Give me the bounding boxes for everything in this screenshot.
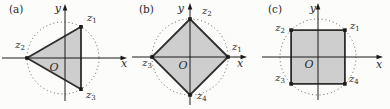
panel-tag: (a) [9,3,23,15]
panel-c: (c)yxOz1z2z3z4 [260,0,390,109]
origin-label: O [178,59,187,72]
vertex-marker-z1 [343,28,347,32]
panel-b-canvas: (b)yxOz1z2z3z4 [130,0,260,109]
vertex-label-z2: z2 [14,39,25,52]
vertex-label-z3: z3 [274,72,285,85]
vertex-marker-z2 [188,17,192,21]
vertex-marker-z3 [150,55,154,59]
panel-a-canvas: (a)yxOz1z2z3 [0,0,130,109]
vertex-marker-z2 [25,56,29,60]
x-axis-label: x [121,57,128,70]
y-axis-label: y [54,2,62,15]
vertex-label-z4: z4 [348,73,359,86]
vertex-label-z1: z1 [231,41,242,54]
vertex-marker-z2 [289,28,293,32]
panel-tag: (c) [268,3,282,15]
y-axis-arrowhead-icon [63,4,68,11]
vertex-label-z2: z2 [274,22,285,35]
vertex-label-z2: z2 [201,5,212,18]
vertex-label-z1: z1 [86,12,97,25]
vertex-label-z3: z3 [85,89,96,102]
origin-label: O [49,61,58,74]
y-axis-arrowhead-icon [188,3,193,10]
y-axis-label: y [177,2,185,15]
x-axis-label: x [237,57,244,70]
vertex-marker-z1 [79,25,83,29]
panel-a: (a)yxOz1z2z3 [0,0,130,109]
y-axis-label: y [309,2,317,15]
vertex-label-z3: z3 [141,57,152,70]
vertex-marker-z3 [79,87,83,91]
vertex-marker-z3 [289,82,293,86]
panel-b: (b)yxOz1z2z3z4 [130,0,260,109]
x-axis-label: x [376,58,383,71]
vertex-marker-z4 [343,82,347,86]
vertex-marker-z1 [226,55,230,59]
panel-tag: (b) [139,3,154,15]
vertex-marker-z4 [188,93,192,97]
complex-plane-figure: (a)yxOz1z2z3 (b)yxOz1z2z3z4 (c)yxOz1z2z3… [0,0,390,109]
panel-c-canvas: (c)yxOz1z2z3z4 [260,0,390,109]
origin-label: O [304,58,313,71]
vertex-label-z1: z1 [349,20,360,33]
y-axis-arrowhead-icon [316,3,321,10]
vertex-label-z4: z4 [196,90,207,103]
